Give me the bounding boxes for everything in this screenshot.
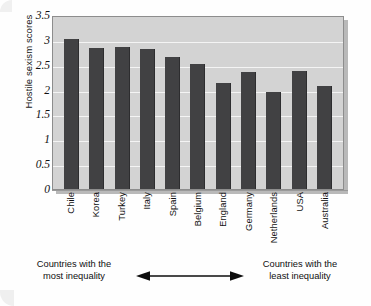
x-axis-baseline (52, 190, 348, 191)
bar-usa (292, 71, 307, 189)
bar-column (211, 17, 236, 189)
annotation-least-inequality: Countries with the least inequality (246, 258, 354, 282)
double-arrow-icon (136, 268, 244, 280)
x-label-slot: USA (287, 192, 312, 254)
bar-column (236, 17, 261, 189)
x-label-slot: Germany (236, 192, 261, 254)
y-axis-tick-2: 2 (24, 85, 50, 97)
bar-italy (140, 49, 155, 189)
y-axis-tick-2-5: 2.5 (24, 60, 50, 72)
page-corner-bottom-left (0, 290, 14, 306)
bar-column (135, 17, 160, 189)
bar-spain (165, 57, 180, 189)
x-axis-label-australia: Australia (320, 192, 330, 229)
x-axis-label-chile: Chile (66, 192, 76, 214)
x-axis-label-netherlands: Netherlands (269, 192, 279, 243)
annotation-most-inequality-line1: Countries with the (37, 259, 111, 269)
x-label-slot: Belgium (185, 192, 210, 254)
x-axis-label-italy: Italy (142, 192, 152, 210)
x-label-slot: Spain (160, 192, 185, 254)
y-axis-tick-3-5: 3.5 (24, 10, 50, 22)
bar-column (312, 17, 337, 189)
annotation-most-inequality-line2: most inequality (43, 271, 105, 281)
x-label-slot: England (211, 192, 236, 254)
bar-series (53, 17, 343, 189)
y-axis-tick-0: 0 (24, 184, 50, 196)
annotation-most-inequality: Countries with the most inequality (20, 258, 128, 282)
bar-england (216, 83, 231, 189)
y-axis-tick-0-5: 0.5 (24, 159, 50, 171)
x-axis-label-turkey: Turkey (117, 192, 127, 221)
y-axis-tick-1-5: 1.5 (24, 110, 50, 122)
bar-germany (241, 72, 256, 189)
bar-chart-figure: Hostile sexism scores 3.532.521.510.50 C… (0, 0, 371, 306)
y-axis-tick-labels: 3.532.521.510.50 (24, 14, 50, 190)
annotation-least-inequality-line1: Countries with the (263, 259, 337, 269)
bar-netherlands (266, 92, 281, 189)
page-corner-top-left (0, 0, 12, 12)
y-axis-tick-3: 3 (24, 35, 50, 47)
bar-column (261, 17, 286, 189)
annotation-least-inequality-line2: least inequality (269, 271, 331, 281)
y-axis-tick-1: 1 (24, 135, 50, 147)
inequality-annotation: Countries with the most inequality Count… (14, 258, 358, 298)
x-label-slot: Turkey (109, 192, 134, 254)
bar-column (185, 17, 210, 189)
x-label-slot: Korea (83, 192, 108, 254)
x-label-slot: Chile (58, 192, 83, 254)
x-axis-label-england: England (218, 192, 228, 227)
x-axis-label-usa: USA (295, 192, 305, 211)
bar-column (84, 17, 109, 189)
x-axis-tick-labels: ChileKoreaTurkeyItalySpainBelgiumEngland… (52, 192, 344, 254)
bar-turkey (115, 47, 130, 189)
bar-column (59, 17, 84, 189)
bar-chile (64, 39, 79, 189)
x-label-slot: Italy (134, 192, 159, 254)
bar-australia (317, 86, 332, 189)
bar-column (110, 17, 135, 189)
x-axis-label-germany: Germany (244, 192, 254, 231)
x-label-slot: Australia (313, 192, 338, 254)
plot-area (52, 16, 344, 190)
x-axis-label-belgium: Belgium (193, 192, 203, 226)
bar-korea (89, 48, 104, 189)
bar-column (286, 17, 311, 189)
bar-column (160, 17, 185, 189)
x-axis-label-korea: Korea (91, 192, 101, 217)
x-label-slot: Netherlands (262, 192, 287, 254)
x-axis-label-spain: Spain (168, 192, 178, 216)
bar-belgium (190, 64, 205, 189)
